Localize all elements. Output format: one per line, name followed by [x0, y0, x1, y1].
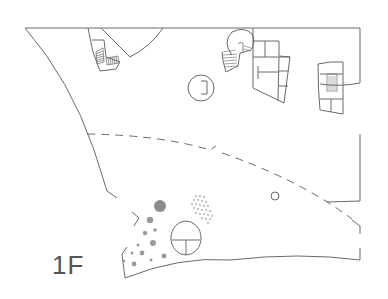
lower-left-notch2 [122, 247, 127, 278]
stair-left-enclosure [88, 28, 120, 71]
curved-room-top [101, 28, 163, 57]
outer-wall-right-lower [327, 134, 360, 202]
lower-left-wall [94, 150, 117, 198]
gray-dots-cluster [123, 200, 167, 266]
lower-left-notch [132, 212, 139, 226]
stair-left-treads [96, 48, 119, 65]
curved-front-wall [125, 256, 360, 278]
core-center [253, 28, 290, 103]
small-circle [271, 192, 279, 200]
floor-label: 1F [52, 252, 84, 278]
dotted-grid-area [191, 195, 213, 224]
core-right [318, 62, 343, 114]
spiral-stair [222, 29, 254, 72]
round-kiosk [171, 221, 201, 255]
outer-wall-right-stub [352, 220, 360, 234]
outer-wall-left [25, 28, 94, 150]
round-column [188, 75, 214, 101]
dashed-boundary [87, 134, 352, 219]
outer-wall-right-upper [320, 28, 360, 85]
